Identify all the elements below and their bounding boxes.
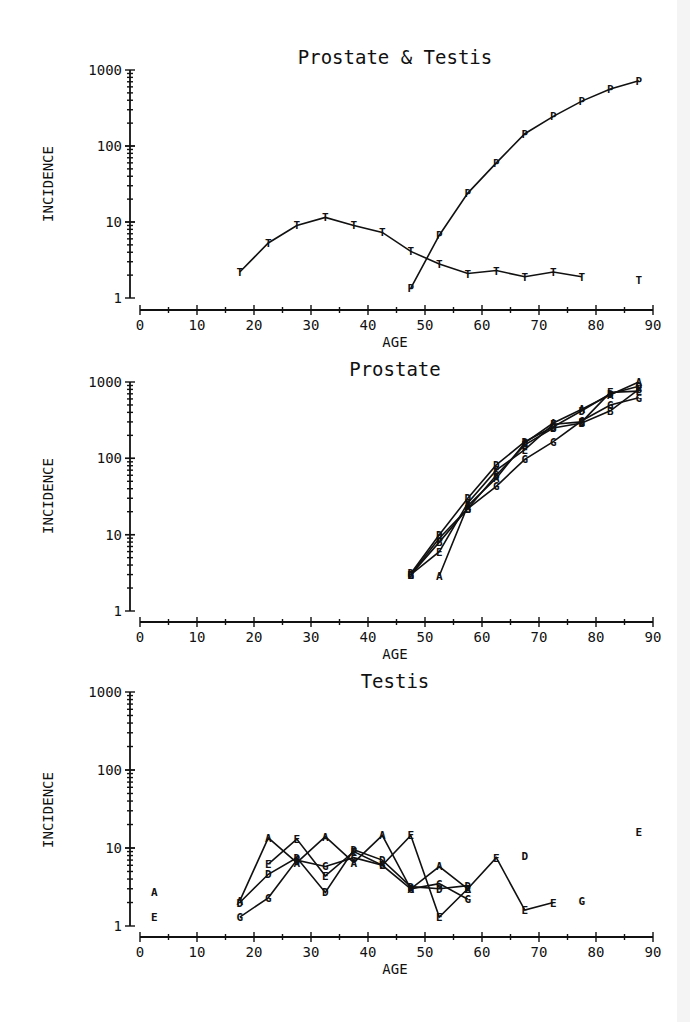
x-tick-label: 90: [645, 944, 662, 960]
data-point-marker: T: [236, 266, 243, 279]
x-tick-label: 60: [474, 317, 491, 333]
series-line: [411, 81, 639, 288]
data-point-marker: G: [436, 878, 443, 891]
data-point-marker: E: [493, 464, 500, 477]
data-point-marker: T: [322, 211, 329, 224]
x-tick-label: 40: [360, 944, 377, 960]
data-point-marker: D: [236, 897, 243, 910]
series-line: [411, 386, 639, 573]
data-point-marker: G: [578, 415, 585, 428]
data-point-marker: T: [635, 274, 642, 287]
chart-panel-1: Prostate & Testis1101001000INCIDENCE0102…: [40, 46, 661, 350]
x-tick-label: 10: [189, 317, 206, 333]
data-point-marker: D: [521, 850, 528, 863]
data-point-marker: G: [493, 480, 500, 493]
x-tick-label: 10: [189, 629, 206, 645]
x-axis-label: AGE: [382, 961, 407, 977]
data-point-marker: G: [607, 399, 614, 412]
x-tick-label: 90: [645, 629, 662, 645]
y-tick-label: 1000: [88, 684, 122, 700]
x-axis-label: AGE: [382, 334, 407, 350]
y-tick-label: 10: [105, 840, 122, 856]
data-point-marker: G: [578, 895, 585, 908]
data-point-marker: E: [607, 386, 614, 399]
y-tick-label: 1: [114, 918, 122, 934]
chart-title: Prostate: [349, 358, 441, 380]
x-tick-label: 40: [360, 317, 377, 333]
data-point-marker: G: [436, 532, 443, 545]
x-tick-label: 0: [136, 629, 144, 645]
y-tick-label: 100: [97, 450, 122, 466]
data-point-marker: T: [521, 271, 528, 284]
data-point-marker: G: [322, 860, 329, 873]
data-point-marker: A: [322, 831, 329, 844]
data-point-marker: E: [436, 546, 443, 559]
data-point-marker: P: [493, 157, 500, 170]
data-point-marker: A: [265, 832, 272, 845]
y-axis-label: INCIDENCE: [40, 458, 56, 534]
x-tick-label: 40: [360, 629, 377, 645]
x-tick-label: 20: [246, 629, 263, 645]
series-T: TTTTTTTTTTTTTT: [236, 211, 642, 287]
x-tick-label: 90: [645, 317, 662, 333]
data-point-marker: G: [265, 892, 272, 905]
data-point-marker: T: [407, 245, 414, 258]
data-point-marker: E: [407, 829, 414, 842]
data-point-marker: T: [379, 226, 386, 239]
data-point-marker: A: [436, 860, 443, 873]
x-tick-label: 30: [303, 629, 320, 645]
y-axis-label: INCIDENCE: [40, 772, 56, 848]
x-tick-label: 80: [588, 944, 605, 960]
data-point-marker: P: [464, 187, 471, 200]
chart-panel-2: Prostate1101001000INCIDENCE0102030405060…: [40, 358, 661, 662]
x-tick-label: 60: [474, 944, 491, 960]
data-point-marker: T: [436, 258, 443, 271]
x-tick-label: 80: [588, 317, 605, 333]
data-point-marker: P: [635, 75, 642, 88]
data-point-marker: E: [265, 858, 272, 871]
series-line: [411, 398, 639, 575]
data-point-marker: G: [407, 569, 414, 582]
data-point-marker: G: [550, 436, 557, 449]
data-point-marker: E: [151, 911, 158, 924]
x-tick-label: 30: [303, 317, 320, 333]
series-P: PPPPPPPPP: [407, 75, 642, 295]
x-tick-label: 70: [531, 629, 548, 645]
data-point-marker: T: [550, 266, 557, 279]
series-A: AAAAAAAAAA: [151, 829, 472, 907]
data-point-marker: T: [350, 219, 357, 232]
chart-title: Prostate & Testis: [298, 46, 492, 68]
data-point-marker: G: [464, 503, 471, 516]
y-tick-label: 10: [105, 214, 122, 230]
x-tick-label: 50: [417, 944, 434, 960]
chart-title: Testis: [361, 670, 430, 692]
data-point-marker: G: [236, 911, 243, 924]
x-axis-label: AGE: [382, 646, 407, 662]
data-point-marker: E: [493, 852, 500, 865]
data-point-marker: E: [293, 833, 300, 846]
data-point-marker: P: [578, 95, 585, 108]
x-tick-label: 20: [246, 944, 263, 960]
data-point-marker: T: [464, 268, 471, 281]
series-line: [411, 391, 639, 574]
data-point-marker: P: [407, 282, 414, 295]
x-tick-label: 20: [246, 317, 263, 333]
x-tick-label: 0: [136, 944, 144, 960]
data-point-marker: P: [607, 83, 614, 96]
data-point-marker: E: [521, 904, 528, 917]
x-tick-label: 80: [588, 629, 605, 645]
y-tick-label: 100: [97, 138, 122, 154]
data-point-marker: A: [379, 829, 386, 842]
charts-canvas: Prostate & Testis1101001000INCIDENCE0102…: [0, 0, 690, 1022]
data-point-marker: A: [151, 886, 158, 899]
x-tick-label: 0: [136, 317, 144, 333]
data-point-marker: T: [265, 237, 272, 250]
series-line: [411, 389, 639, 574]
data-point-marker: D: [322, 886, 329, 899]
series-E: EEEEEEEEEEEEE: [151, 826, 642, 924]
y-tick-label: 100: [97, 762, 122, 778]
data-point-marker: E: [550, 418, 557, 431]
x-tick-label: 10: [189, 944, 206, 960]
data-point-marker: G: [521, 453, 528, 466]
data-point-marker: A: [436, 570, 443, 583]
